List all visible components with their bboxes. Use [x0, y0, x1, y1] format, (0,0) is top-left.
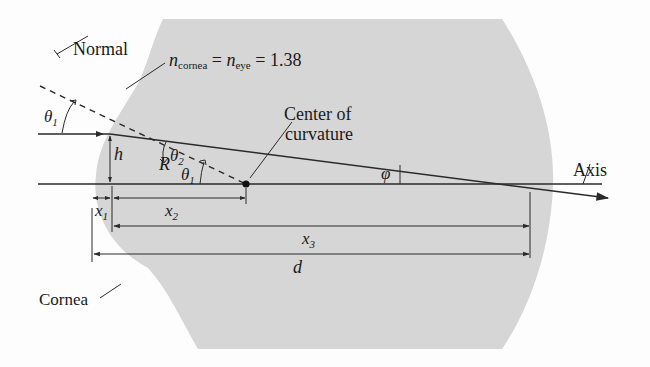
label-axis: Axis	[573, 160, 607, 180]
angle-theta1-incident-arc	[62, 102, 74, 133]
label-normal: Normal	[73, 39, 128, 59]
cornea-refraction-diagram: Normal ncornea = neye = 1.38 Center of c…	[0, 0, 650, 367]
label-theta1-incident: θ1	[44, 107, 58, 128]
center-of-curvature-dot	[242, 180, 249, 187]
leader-cornea	[100, 284, 121, 298]
label-d: d	[293, 257, 303, 277]
label-cornea: Cornea	[39, 290, 89, 309]
label-R: R	[158, 154, 170, 174]
label-center-of-curvature-1: Center of	[284, 104, 351, 124]
label-phi: φ	[381, 164, 390, 183]
label-center-of-curvature-2: curvature	[285, 124, 353, 144]
label-h: h	[114, 144, 123, 164]
leader-normal-tick	[54, 50, 60, 58]
incident-ray-arrow-icon	[96, 131, 104, 137]
